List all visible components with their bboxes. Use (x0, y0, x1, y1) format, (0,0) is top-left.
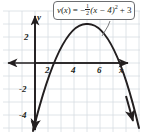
y-tick-label-neg2: -2 (19, 85, 27, 94)
callout-leader-line (102, 21, 110, 36)
y-axis-label: y (37, 13, 41, 22)
x-tick-label-4: 4 (71, 66, 76, 75)
y-tick-label-2: 2 (24, 33, 29, 42)
equation-equals: = (73, 5, 78, 15)
equation-binomial: (x − 4) (90, 5, 114, 15)
x-tick-label-2: 2 (45, 66, 50, 75)
equation-callout-box: v(x) = −12(x − 4)2 + 3 (53, 1, 135, 20)
equation-exponent: 2 (115, 3, 118, 10)
y-tick-label-neg4: -4 (19, 111, 27, 120)
parabola-figure: 2 4 6 2 -2 -4 x y v(x) = −12(x − 4)2 + 3 (0, 0, 141, 135)
equation-paren-close: ) (68, 5, 71, 15)
x-tick-label-6: 6 (97, 66, 102, 75)
equation-constant: + 3 (120, 5, 132, 15)
x-axis-label: x (119, 66, 124, 75)
